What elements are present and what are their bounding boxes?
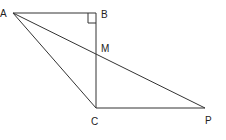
segment-ap (13, 13, 205, 108)
point-label-p: P (205, 115, 212, 126)
point-label-a: A (0, 8, 7, 19)
point-label-b: B (101, 9, 108, 20)
segment-ac (13, 13, 96, 108)
geometry-diagram: A B M C P (0, 0, 226, 140)
point-label-m: M (101, 43, 109, 54)
point-label-c: C (91, 116, 98, 127)
right-angle-marker (88, 13, 96, 23)
